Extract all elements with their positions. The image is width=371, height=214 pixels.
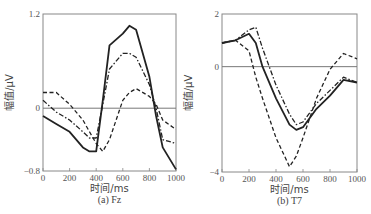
y-tick-label: 2 <box>215 9 220 19</box>
y-tick-label: −0.8 <box>24 166 41 176</box>
x-tick-label: 1000 <box>167 173 186 183</box>
x-tick-label: 800 <box>323 174 337 184</box>
x-axis-label: 时间/ms <box>90 182 128 194</box>
x-tick-label: 200 <box>242 174 256 184</box>
x-tick-label: 200 <box>63 173 77 183</box>
figure: 02004006008001000−0.801.2时间/ms(a) Fz幅值/μ… <box>0 0 371 214</box>
y-tick-label: 1.2 <box>29 9 40 19</box>
x-tick-label: 400 <box>269 174 283 184</box>
panel-caption: (a) Fz <box>98 194 122 206</box>
plot-frame <box>43 14 176 171</box>
series-solid <box>222 34 357 130</box>
series-dashed <box>222 40 357 166</box>
x-tick-label: 1000 <box>348 174 367 184</box>
y-tick-label: 0 <box>215 62 220 72</box>
x-tick-label: 0 <box>220 174 225 184</box>
x-tick-label: 600 <box>116 173 130 183</box>
x-tick-label: 600 <box>296 174 310 184</box>
y-axis-label: 幅值/μV <box>182 75 194 112</box>
y-tick-label: 0 <box>36 103 41 113</box>
chart-b: 02004006008001000−402时间/ms(b) T7幅值/μV <box>182 9 367 207</box>
x-axis-label: 时间/ms <box>270 183 308 195</box>
panel-caption: (b) T7 <box>277 195 302 207</box>
y-tick-label: −4 <box>209 167 219 177</box>
chart-a: 02004006008001000−0.801.2时间/ms(a) Fz幅值/μ… <box>3 9 186 206</box>
x-tick-label: 800 <box>143 173 157 183</box>
x-tick-label: 400 <box>89 173 103 183</box>
series-dash-dot <box>222 27 357 124</box>
y-axis-label: 幅值/μV <box>3 74 15 111</box>
x-tick-label: 0 <box>41 173 46 183</box>
